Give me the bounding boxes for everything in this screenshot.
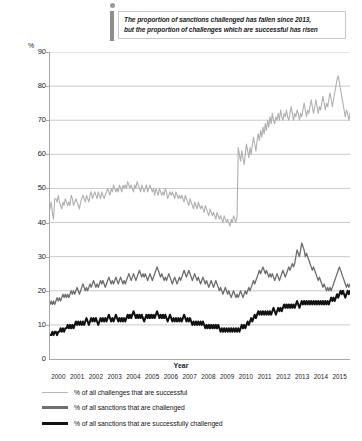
series-line-2: [50, 291, 350, 335]
legend-label-2: % of all sanctions that are successfully…: [74, 420, 223, 427]
legend-line-swatch-icon: [42, 392, 68, 393]
callout-annotation: The proportion of sanctions challenged h…: [110, 3, 350, 39]
y-tick-label-60: 60: [20, 150, 46, 158]
x-tick-label-2015: 2015: [329, 373, 351, 380]
y-tick-label-90: 90: [20, 48, 46, 56]
y-tick-label-10: 10: [20, 321, 46, 329]
x-axis-ticks: 2000200120022003200420052006200720082009…: [49, 373, 349, 385]
y-tick-label-70: 70: [20, 116, 46, 124]
legend-item-sanctions-challenged: % of all sanctions that are challenged: [42, 400, 342, 415]
legend-line-swatch-icon: [42, 406, 68, 408]
legend-label-1: % of all sanctions that are challenged: [74, 404, 185, 411]
callout-accent-bar-icon: [110, 11, 114, 41]
chart-page: The proportion of sanctions challenged h…: [0, 0, 362, 441]
callout-line-2: but the proportion of challenges which a…: [124, 25, 341, 35]
x-axis-title: Year: [0, 362, 362, 369]
callout-dot-icon: [110, 3, 115, 8]
y-tick-label-80: 80: [20, 82, 46, 90]
chart-container: % 9080706050403020100 Year 2000200120022…: [0, 40, 362, 370]
legend-label-0: % of all challenges that are successful: [74, 389, 187, 396]
callout-text-box: The proportion of sanctions challenged h…: [118, 11, 346, 39]
legend-item-sanctions-successfully-challenged: % of all sanctions that are successfully…: [42, 415, 342, 432]
plot-area: [49, 52, 350, 360]
y-tick-label-20: 20: [20, 287, 46, 295]
chart-legend: % of all challenges that are successful …: [42, 385, 342, 432]
chart-svg: [50, 52, 350, 359]
y-tick-label-30: 30: [20, 253, 46, 261]
legend-line-swatch-icon: [42, 422, 68, 425]
y-tick-label-40: 40: [20, 219, 46, 227]
series-line-0: [50, 76, 350, 226]
series-line-1: [50, 243, 350, 304]
callout-line-1: The proportion of sanctions challenged h…: [124, 15, 341, 25]
y-tick-label-50: 50: [20, 184, 46, 192]
legend-item-challenges-successful: % of all challenges that are successful: [42, 385, 342, 400]
